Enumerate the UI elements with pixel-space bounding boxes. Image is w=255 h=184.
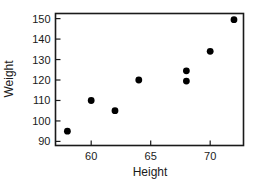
y-axis-title: Weight (2, 60, 16, 98)
scatter-plot-figure: 606570 90100110120130140150 Height Weigh… (0, 0, 255, 184)
x-tick-label: 60 (85, 150, 97, 162)
data-point-marker (88, 97, 95, 104)
data-point-marker (135, 77, 142, 84)
x-tick-label: 70 (204, 150, 216, 162)
plot-border (56, 14, 244, 146)
data-points (64, 16, 237, 134)
data-point-marker (231, 16, 238, 23)
data-point-marker (183, 78, 190, 85)
y-tick-label: 140 (32, 33, 50, 45)
y-axis-tick-labels: 90100110120130140150 (32, 13, 50, 148)
y-tick-label: 100 (32, 115, 50, 127)
plot-frame (56, 14, 244, 146)
x-tick-label: 65 (145, 150, 157, 162)
y-tick-label: 90 (38, 135, 50, 147)
x-axis-tick-labels: 606570 (85, 150, 216, 162)
data-point-marker (64, 128, 71, 135)
y-tick-label: 150 (32, 13, 50, 25)
y-tick-label: 110 (33, 94, 51, 106)
x-axis-title: Height (133, 165, 168, 179)
data-point-marker (112, 107, 119, 114)
y-tick-label: 120 (32, 74, 50, 86)
data-point-marker (183, 67, 190, 74)
data-point-marker (207, 48, 214, 55)
plot-canvas: 606570 90100110120130140150 Height Weigh… (0, 0, 255, 184)
y-tick-label: 130 (32, 54, 50, 66)
